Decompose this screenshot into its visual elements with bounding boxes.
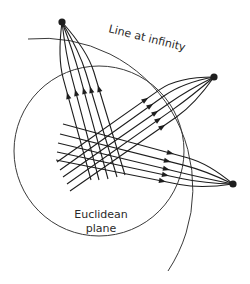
arrowhead-icon: [146, 104, 153, 110]
projective-plane-diagram: Line at infinity Euclidean plane: [0, 0, 250, 284]
arrowhead-icon: [141, 98, 148, 104]
point-at-infinity-top-left: [58, 18, 65, 25]
flat-family: [56, 124, 233, 187]
arrowhead-icon: [158, 125, 165, 131]
euclidean-plane-label-line2: plane: [86, 222, 117, 235]
parallel-line: [63, 124, 233, 184]
arrowhead-icon: [89, 86, 94, 93]
point-at-infinity-lower-right: [229, 180, 236, 187]
arrowhead-icon: [151, 111, 158, 117]
euclidean-plane-label-line1: Euclidean: [74, 208, 128, 221]
rising-family: [57, 77, 214, 191]
arrowhead-icon: [82, 87, 87, 94]
arrowhead-icon: [154, 118, 161, 124]
arrowhead-icon: [166, 150, 173, 155]
arrowhead-icon: [159, 178, 166, 183]
arrowhead-icon: [162, 166, 169, 171]
arrowhead-icon: [66, 92, 71, 99]
parallel-line: [57, 152, 233, 184]
arrowhead-icon: [97, 85, 102, 92]
arrowhead-icon: [74, 89, 79, 96]
arrowhead-icon: [163, 158, 170, 163]
point-at-infinity-upper-right: [210, 73, 217, 80]
line-at-infinity-label: Line at infinity: [107, 22, 187, 54]
